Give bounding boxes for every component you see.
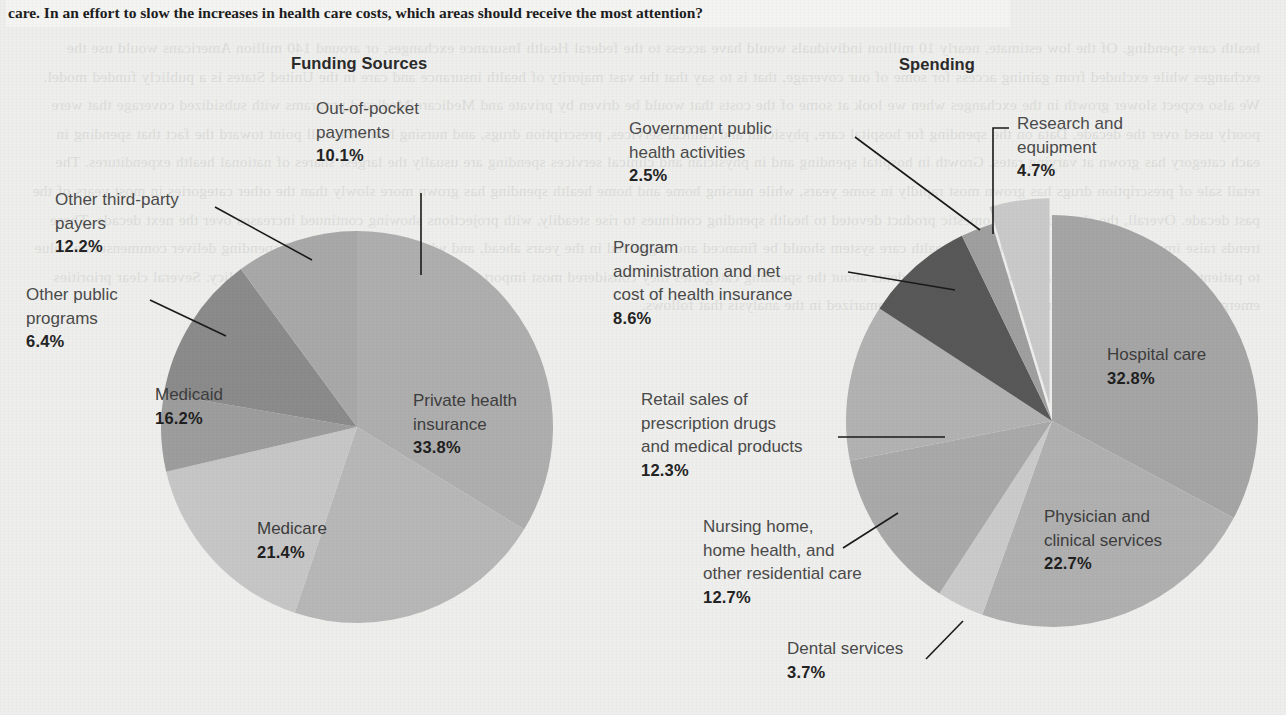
label-private-l2: insurance (413, 415, 487, 434)
leader-gov-public-health (855, 137, 980, 230)
label-other-third-party-payers: Other third-party payers 12.2% (55, 188, 275, 259)
label-hospital-pct: 32.8% (1107, 367, 1286, 391)
label-other-public-l1: Other public (26, 285, 118, 304)
label-medicaid: Medicaid 16.2% (155, 383, 325, 430)
label-third-party-l2: payers (55, 214, 106, 233)
pie-charts-svg (0, 0, 1286, 715)
label-out-of-pocket-pct: 10.1% (316, 144, 556, 168)
label-retail-l3: and medical products (641, 437, 803, 456)
label-other-public-programs: Other public programs 6.4% (26, 283, 226, 354)
label-hospital-l1: Hospital care (1107, 345, 1206, 364)
label-third-party-l1: Other third-party (55, 190, 179, 209)
label-out-of-pocket-l1: Out-of-pocket (316, 99, 419, 118)
label-progadmin-l2: administration and net (613, 262, 780, 281)
label-dental-services: Dental services 3.7% (787, 637, 977, 684)
label-nursing-l1: Nursing home, (703, 517, 814, 536)
label-physician-l2: clinical services (1044, 531, 1162, 550)
label-private-health-insurance: Private health insurance 33.8% (413, 389, 603, 460)
label-retail-pct: 12.3% (641, 459, 891, 483)
label-gov-l2: health activities (629, 143, 745, 162)
label-nursing-home: Nursing home, home health, and other res… (703, 515, 953, 609)
label-research-l2: equipment (1017, 138, 1096, 157)
label-retail-l1: Retail sales of (641, 390, 748, 409)
label-physician-pct: 22.7% (1044, 552, 1244, 576)
label-progadmin-l1: Program (613, 238, 678, 257)
label-gov-pct: 2.5% (629, 164, 859, 188)
label-retail-l2: prescription drugs (641, 414, 776, 433)
label-nursing-l2: home health, and (703, 541, 834, 560)
label-hospital-care: Hospital care 32.8% (1107, 343, 1286, 390)
label-dental-l1: Dental services (787, 639, 903, 658)
label-research-l1: Research and (1017, 114, 1123, 133)
label-medicaid-pct: 16.2% (155, 407, 325, 431)
label-out-of-pocket-text: Out-of-pocket payments 10.1% (316, 97, 556, 168)
label-research-equipment: Research and equipment 4.7% (1017, 112, 1197, 183)
label-third-party-pct: 12.2% (55, 235, 275, 259)
label-retail-prescription-drugs: Retail sales of prescription drugs and m… (641, 388, 891, 482)
label-medicare: Medicare 21.4% (257, 517, 427, 564)
label-private-l1: Private health (413, 391, 517, 410)
label-medicare-l1: Medicare (257, 519, 327, 538)
label-nursing-pct: 12.7% (703, 586, 953, 610)
label-gov-l1: Government public (629, 119, 772, 138)
label-medicaid-l1: Medicaid (155, 385, 223, 404)
label-government-public-health: Government public health activities 2.5% (629, 117, 859, 188)
label-physician-clinical-services: Physician and clinical services 22.7% (1044, 505, 1244, 576)
label-medicare-pct: 21.4% (257, 541, 427, 565)
label-nursing-l3: other residential care (703, 564, 862, 583)
label-other-public-l2: programs (26, 309, 98, 328)
label-progadmin-l3: cost of health insurance (613, 285, 793, 304)
label-program-administration: Program administration and net cost of h… (613, 236, 863, 330)
label-out-of-pocket-l2: payments (316, 123, 390, 142)
label-physician-l1: Physician and (1044, 507, 1150, 526)
label-dental-pct: 3.7% (787, 661, 977, 685)
label-private-pct: 33.8% (413, 436, 603, 460)
label-progadmin-pct: 8.6% (613, 307, 863, 331)
label-other-public-pct: 6.4% (26, 330, 226, 354)
label-research-pct: 4.7% (1017, 159, 1197, 183)
